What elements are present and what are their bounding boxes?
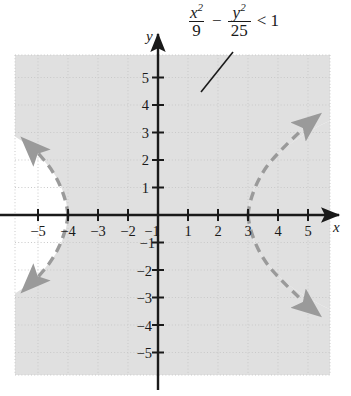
y-tick-label: −5 [137,345,152,361]
x-tick-label: 2 [214,223,221,239]
y-tick-label: 3 [142,125,149,141]
x-tick-label: 3 [244,223,251,239]
y-tick-label: 4 [142,97,150,113]
x-tick-label: 5 [304,223,311,239]
x-tick-label: 4 [274,223,282,239]
y-tick-label: −3 [137,290,152,306]
y-tick-label: 5 [142,70,149,86]
x-tick-label: −3 [90,223,105,239]
x-axis-label: x [333,219,340,236]
x-tick-label: −2 [120,223,135,239]
y-tick-label: −1 [140,235,155,251]
graph-figure: x2 9 − y2 25 < 1 [0,0,351,396]
x-tick-label: −4 [60,223,76,239]
y-tick-label: 2 [142,152,149,168]
y-tick-label: −2 [137,263,152,279]
coordinate-plane: −5 −4 −3 −2 −1 1 2 3 4 5 5 4 3 2 1 −1 −2… [0,0,351,396]
x-tick-label: −5 [30,223,45,239]
y-tick-label: −4 [137,318,153,334]
y-tick-label: 1 [142,180,149,196]
y-axis-label: y [146,28,153,45]
x-tick-label: 1 [184,223,191,239]
